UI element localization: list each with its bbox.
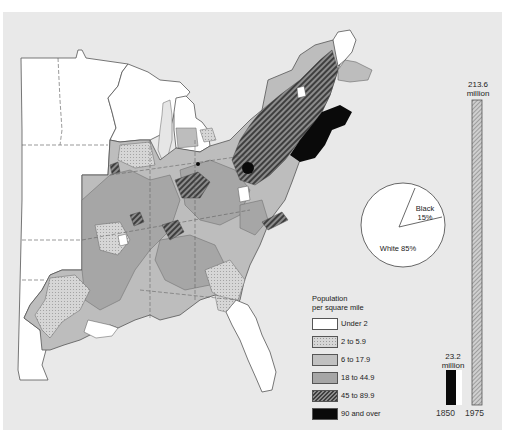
bar-1850-year-label: 1850 — [436, 408, 455, 418]
legend-swatch-45-to-89-9 — [312, 390, 338, 402]
legend-swatch-6-to-17-9 — [312, 354, 338, 366]
florida — [226, 300, 276, 392]
legend-title: Population per square mile — [312, 294, 364, 312]
legend-item-18-to-44-9: 18 to 44.9 — [312, 371, 374, 384]
pie-label-black: Black 15% — [410, 204, 440, 222]
legend-item-under-2: Under 2 — [312, 317, 368, 330]
legend-swatch-2-to-5-9 — [312, 336, 338, 348]
legend-swatch-under-2 — [312, 318, 338, 330]
legend-item-6-to-17-9: 6 to 17.9 — [312, 353, 370, 366]
bar-1975 — [472, 100, 482, 405]
race-pie-chart — [361, 183, 445, 267]
bar-1975-year-label: 1975 — [465, 408, 484, 418]
legend-item-45-to-89-9: 45 to 89.9 — [312, 389, 374, 402]
bar-1850-white — [456, 370, 462, 405]
legend-swatch-90-and-over — [312, 408, 338, 420]
bar-1850-value-label: 23.2 million — [434, 352, 472, 370]
legend-swatch-18-to-44-9 — [312, 372, 338, 384]
bar-1850-black — [446, 370, 456, 405]
legend-item-90-and-over: 90 and over — [312, 407, 381, 420]
legend-item-2-to-5-9: 2 to 5.9 — [312, 335, 366, 348]
bar-1975-value-label: 213.6 million — [458, 80, 498, 98]
pie-label-white: White 85% — [368, 244, 428, 253]
